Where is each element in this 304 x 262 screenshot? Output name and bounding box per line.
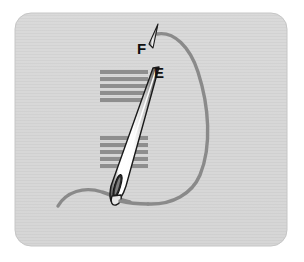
label-f: F [137,41,146,56]
figure-root: F E [0,0,304,262]
illustration-panel [15,13,287,246]
embroidery-stitch-illustration [0,0,304,262]
label-e: E [154,65,164,80]
